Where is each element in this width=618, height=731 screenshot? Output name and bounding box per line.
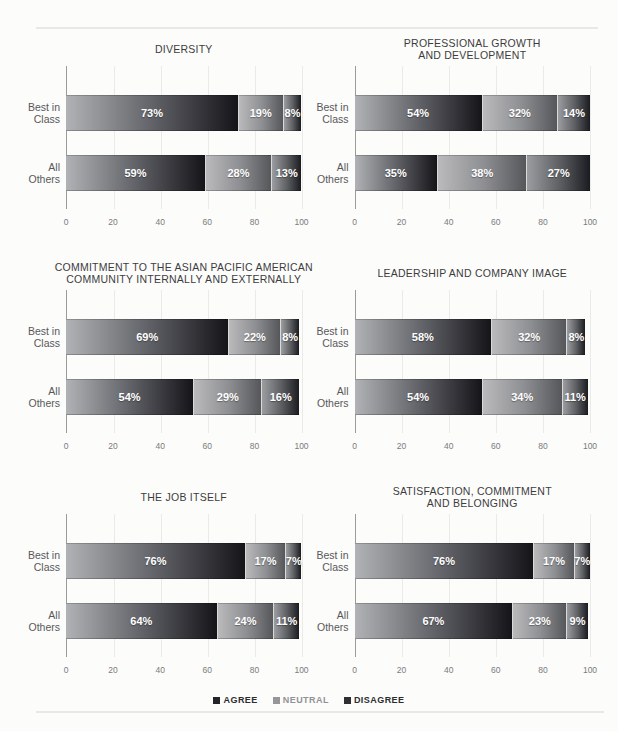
bar-segment-agree: 35%: [355, 155, 437, 191]
segment-value-label: 7%: [574, 555, 590, 567]
x-tick-label: 60: [203, 665, 212, 675]
agree-swatch-icon: [213, 697, 220, 704]
bar-row: 76%17%7%: [355, 543, 591, 579]
segment-value-label: 64%: [130, 615, 152, 627]
segment-value-label: 32%: [509, 107, 531, 119]
category-label: All Others: [28, 379, 60, 415]
plot-area: Best in Class69%22%8%All Others54%29%16%: [28, 290, 302, 435]
bar-segment-agree: 54%: [66, 379, 193, 415]
segment-value-label: 13%: [276, 167, 298, 179]
segment-value-label: 22%: [244, 331, 266, 343]
bottom-divider: [36, 711, 604, 713]
segment-value-label: 23%: [529, 615, 551, 627]
bar-segment-neutral: 34%: [482, 379, 562, 415]
disagree-swatch-icon: [344, 697, 351, 704]
bar-row: 76%17%7%: [66, 543, 302, 579]
x-tick-label: 60: [491, 217, 500, 227]
category-label: Best in Class: [317, 95, 349, 131]
bar-segment-disagree: 7%: [574, 543, 590, 579]
category-label: Best in Class: [28, 319, 60, 355]
bar-row: 54%32%14%: [355, 95, 591, 131]
segment-value-label: 59%: [124, 167, 146, 179]
chart-the-job-itself: THE JOB ITSELF Best in Class76%17%7%All …: [28, 480, 302, 681]
bar-segment-agree: 59%: [66, 155, 205, 191]
legend-item-agree: AGREE: [213, 695, 257, 705]
bar-segment-disagree: 11%: [562, 379, 588, 415]
chart-title-text: PROFESSIONAL GROWTH AND DEVELOPMENT: [404, 37, 541, 61]
x-axis-ticks: 020406080100: [355, 211, 591, 233]
x-tick-label: 20: [397, 441, 406, 451]
x-tick-label: 0: [64, 441, 69, 451]
segment-value-label: 54%: [407, 391, 429, 403]
bar-segment-agree: 69%: [66, 319, 228, 355]
bar-row: 64%24%11%: [66, 603, 302, 639]
legend-item-disagree: DISAGREE: [344, 695, 405, 705]
bar-segment-neutral: 29%: [193, 379, 261, 415]
x-tick-label: 40: [444, 665, 453, 675]
x-tick-label: 80: [250, 217, 259, 227]
chart-professional-growth: PROFESSIONAL GROWTH AND DEVELOPMENT Best…: [317, 32, 591, 233]
x-tick-label: 0: [64, 665, 69, 675]
chart-satisfaction-belonging: SATISFACTION, COMMITMENT AND BELONGING B…: [317, 480, 591, 681]
bar-segment-disagree: 7%: [285, 543, 301, 579]
segment-value-label: 19%: [250, 107, 272, 119]
plot-area: Best in Class73%19%8%All Others59%28%13%: [28, 66, 302, 211]
bar-segment-disagree: 14%: [557, 95, 590, 131]
legend-label: AGREE: [223, 695, 257, 705]
legend-label: DISAGREE: [354, 695, 405, 705]
segment-value-label: 29%: [217, 391, 239, 403]
segment-value-label: 17%: [254, 555, 276, 567]
bar-segment-neutral: 17%: [245, 543, 285, 579]
bar-segment-neutral: 23%: [512, 603, 566, 639]
segment-value-label: 34%: [511, 391, 533, 403]
segment-value-label: 35%: [385, 167, 407, 179]
neutral-swatch-icon: [273, 697, 280, 704]
segment-value-label: 7%: [286, 555, 302, 567]
charts-grid: DIVERSITY Best in Class73%19%8%All Other…: [28, 32, 590, 681]
page: DIVERSITY Best in Class73%19%8%All Other…: [0, 0, 618, 731]
bar-segment-disagree: 8%: [280, 319, 299, 355]
x-tick-label: 60: [491, 665, 500, 675]
x-tick-label: 0: [352, 441, 357, 451]
chart-title-text: DIVERSITY: [155, 43, 213, 55]
category-label: Best in Class: [317, 319, 349, 355]
segment-value-label: 76%: [433, 555, 455, 567]
chart-title: PROFESSIONAL GROWTH AND DEVELOPMENT: [355, 32, 591, 66]
x-tick-label: 100: [583, 665, 597, 675]
bar-segment-disagree: 16%: [261, 379, 299, 415]
x-tick-label: 60: [203, 441, 212, 451]
x-axis-ticks: 020406080100: [66, 211, 302, 233]
x-tick-label: 20: [108, 441, 117, 451]
chart-title: DIVERSITY: [66, 32, 302, 66]
bar-row: 54%34%11%: [355, 379, 591, 415]
segment-value-label: 11%: [276, 615, 297, 627]
bar-segment-disagree: 9%: [566, 603, 587, 639]
category-label: All Others: [317, 603, 349, 639]
chart-apa-community-commitment: COMMITMENT TO THE ASIAN PACIFIC AMERICAN…: [28, 256, 302, 457]
bar-segment-disagree: 13%: [271, 155, 302, 191]
bar-segment-agree: 58%: [355, 319, 492, 355]
bar-segment-agree: 76%: [355, 543, 534, 579]
x-tick-label: 100: [294, 441, 308, 451]
legend: AGREE NEUTRAL DISAGREE: [0, 695, 618, 705]
chart-diversity: DIVERSITY Best in Class73%19%8%All Other…: [28, 32, 302, 233]
bar-segment-neutral: 38%: [437, 155, 526, 191]
bar-row: 35%38%27%: [355, 155, 591, 191]
chart-title: SATISFACTION, COMMITMENT AND BELONGING: [355, 480, 591, 514]
segment-value-label: 32%: [518, 331, 540, 343]
gridline: [302, 66, 303, 209]
bar-segment-neutral: 32%: [482, 95, 557, 131]
x-tick-label: 80: [250, 441, 259, 451]
chart-title-text: THE JOB ITSELF: [141, 491, 227, 503]
x-tick-label: 80: [538, 441, 547, 451]
plot-area: Best in Class54%32%14%All Others35%38%27…: [317, 66, 591, 211]
segment-value-label: 11%: [564, 391, 585, 403]
bar-segment-neutral: 32%: [491, 319, 566, 355]
bar-segment-agree: 54%: [355, 379, 482, 415]
category-label: All Others: [317, 379, 349, 415]
x-tick-label: 40: [444, 441, 453, 451]
gridline: [590, 290, 591, 433]
bar-segment-disagree: 8%: [283, 95, 302, 131]
bar-row: 54%29%16%: [66, 379, 302, 415]
gridline: [590, 66, 591, 209]
